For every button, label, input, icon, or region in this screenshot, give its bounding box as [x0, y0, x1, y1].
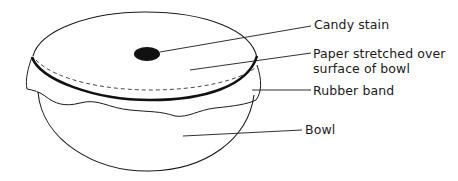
label-candy-stain: Candy stain	[314, 17, 389, 32]
label-paper-line2: surface of bowl	[313, 61, 410, 76]
label-rubber-band: Rubber band	[313, 83, 394, 98]
label-paper-line1: Paper stretched over	[313, 46, 446, 61]
candy-stain	[134, 47, 160, 61]
label-bowl: Bowl	[305, 122, 335, 137]
rubber-band	[32, 56, 257, 100]
leader-candy-stain	[160, 26, 311, 52]
leader-bowl	[183, 130, 302, 136]
bowl-body	[38, 92, 254, 171]
